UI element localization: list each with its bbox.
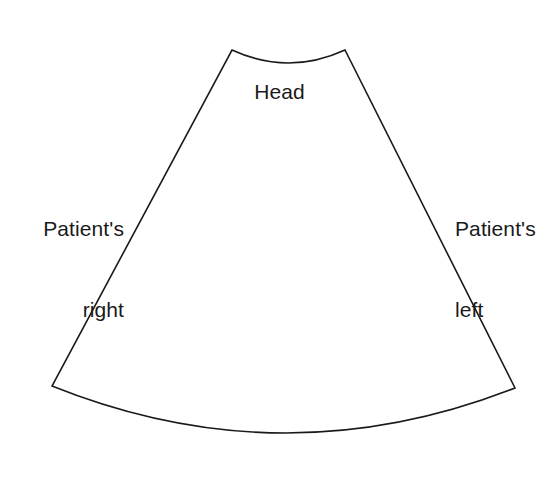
label-head: Head — [0, 24, 559, 159]
label-feet: Feet — [0, 441, 559, 483]
label-patient-left: Patient's left — [455, 161, 559, 377]
label-patient-right-line1: Patient's — [0, 215, 124, 242]
label-patient-left-line2: left — [455, 296, 559, 323]
sector-diagram-canvas: Head Patient's right Patient's left Feet — [0, 0, 559, 483]
label-head-text: Head — [0, 78, 559, 105]
label-patient-right-line2: right — [0, 296, 124, 323]
label-patient-right: Patient's right — [0, 161, 124, 377]
label-patient-left-line1: Patient's — [455, 215, 559, 242]
